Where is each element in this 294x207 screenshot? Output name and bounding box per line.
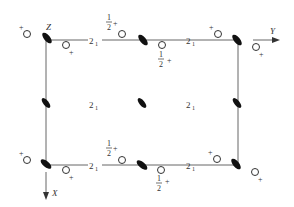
z-axis-label: Z	[46, 22, 52, 32]
plus-sign: +	[209, 23, 214, 32]
screw-axis-label: 2 1	[186, 36, 195, 47]
half-denominator: 2	[157, 184, 161, 193]
twofold-axis-icon	[41, 31, 54, 45]
position-circle-icon	[24, 157, 31, 164]
plus-sign: +	[69, 173, 74, 182]
plus-sign: +	[113, 144, 118, 153]
plus-sign: +	[165, 177, 170, 186]
plus-sign: +	[19, 23, 24, 32]
position-circle-icon	[158, 167, 165, 174]
position-circle-icon	[119, 157, 126, 164]
svg-text:2: 2	[186, 36, 191, 46]
plus-sign: +	[208, 148, 213, 157]
svg-text:2: 2	[89, 161, 94, 171]
screw-axis-label: 2 1	[89, 36, 98, 47]
screw-axis-label: 2 1	[89, 161, 98, 172]
half-numerator: 1	[107, 13, 111, 22]
svg-text:1: 1	[95, 41, 98, 47]
twofold-axis-icon	[230, 157, 243, 171]
svg-text:1: 1	[95, 105, 98, 111]
half-numerator: 1	[159, 50, 163, 59]
svg-text:2: 2	[186, 100, 191, 110]
svg-text:1: 1	[95, 166, 98, 172]
half-numerator: 1	[157, 174, 161, 183]
screw-axis-label: 2 1	[186, 161, 195, 172]
plus-sign: +	[167, 56, 172, 65]
half-denominator: 2	[159, 60, 163, 69]
svg-text:1: 1	[192, 105, 195, 111]
position-circle-icon	[214, 156, 221, 163]
svg-text:1: 1	[192, 41, 195, 47]
plus-sign: +	[113, 19, 118, 28]
plus-sign: +	[258, 175, 263, 184]
svg-text:2: 2	[89, 36, 94, 46]
y-axis-arrowhead	[272, 37, 280, 43]
position-circle-icon	[119, 31, 126, 38]
svg-text:2: 2	[186, 161, 191, 171]
twofold-axis-icon	[136, 97, 148, 110]
space-group-diagram: + + + + + + + + + + + + 1 2 1 2 1 2 1 2 …	[0, 0, 294, 207]
svg-text:1: 1	[192, 166, 195, 172]
plus-sign: +	[259, 50, 264, 59]
position-circle-icon	[215, 31, 222, 38]
plus-sign: +	[19, 149, 24, 158]
x-axis-label: X	[51, 188, 58, 198]
half-numerator: 1	[107, 139, 111, 148]
y-axis-label: Y	[270, 26, 276, 36]
position-circle-icon	[159, 42, 166, 49]
screw-axis-label: 2 1	[186, 100, 195, 111]
half-denominator: 2	[107, 23, 111, 32]
half-denominator: 2	[107, 149, 111, 158]
x-axis-arrowhead	[43, 192, 49, 200]
screw-axis-label: 2 1	[89, 100, 98, 111]
svg-text:2: 2	[89, 100, 94, 110]
plus-sign: +	[69, 48, 74, 57]
twofold-axis-icon	[231, 97, 243, 110]
position-circle-icon	[24, 31, 31, 38]
